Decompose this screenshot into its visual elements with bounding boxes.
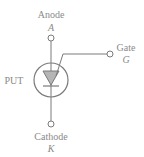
anode-symbol: A xyxy=(47,22,55,33)
anode-terminal-icon xyxy=(48,35,54,41)
gate-symbol: G xyxy=(122,54,129,65)
cathode-label: Cathode xyxy=(34,131,68,142)
cathode-terminal-icon xyxy=(48,121,54,127)
put-symbol-diagram: Anode A Gate G PUT Cathode K xyxy=(0,0,144,157)
anode-label: Anode xyxy=(38,9,65,20)
gate-terminal-icon xyxy=(107,51,113,57)
device-label: PUT xyxy=(5,75,24,86)
cathode-symbol: K xyxy=(47,143,56,154)
gate-lead-line xyxy=(56,54,107,76)
gate-label: Gate xyxy=(117,42,136,53)
